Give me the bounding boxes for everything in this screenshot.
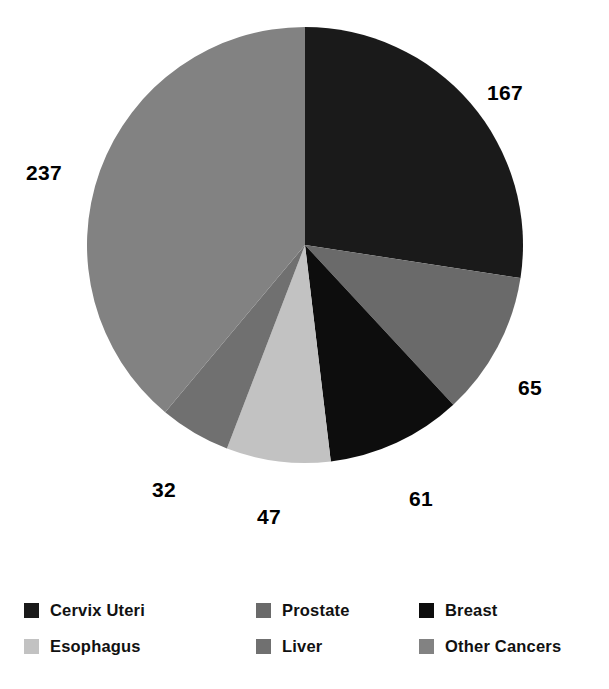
legend-item-esophagus[interactable]: Esophagus (24, 637, 256, 656)
legend-item-prostate[interactable]: Prostate (256, 601, 419, 620)
legend-item-liver[interactable]: Liver (256, 637, 419, 656)
data-label-cervix-uteri: 167 (487, 81, 523, 105)
pie-slice-cervix-uteri[interactable] (305, 27, 523, 278)
data-label-liver: 32 (152, 478, 176, 502)
legend-swatch-icon-prostate (256, 603, 271, 618)
legend-label-other-cancers: Other Cancers (445, 637, 561, 656)
pie-chart-svg (85, 25, 525, 465)
data-label-prostate: 65 (518, 376, 542, 400)
legend-item-other-cancers[interactable]: Other Cancers (419, 637, 584, 656)
legend-swatch-icon-liver (256, 639, 271, 654)
legend-swatch-icon-other-cancers (419, 639, 434, 654)
pie-chart-figure: 167 65 61 47 32 237 Cervix Uteri Prostat… (0, 0, 609, 689)
legend-swatch-icon-esophagus (24, 639, 39, 654)
legend-label-prostate: Prostate (282, 601, 350, 620)
legend-item-breast[interactable]: Breast (419, 601, 584, 620)
data-label-breast: 61 (409, 487, 433, 511)
chart-legend: Cervix Uteri Prostate Breast Esophagus L… (24, 592, 584, 664)
legend-item-cervix-uteri[interactable]: Cervix Uteri (24, 601, 256, 620)
legend-label-cervix-uteri: Cervix Uteri (50, 601, 145, 620)
pie-slices (87, 27, 523, 463)
pie-chart-plot-area: 167 65 61 47 32 237 (0, 0, 609, 560)
legend-swatch-icon-cervix-uteri (24, 603, 39, 618)
data-label-other-cancers: 237 (26, 161, 62, 185)
legend-label-liver: Liver (282, 637, 322, 656)
legend-label-breast: Breast (445, 601, 498, 620)
data-label-esophagus: 47 (257, 505, 281, 529)
legend-label-esophagus: Esophagus (50, 637, 141, 656)
legend-swatch-icon-breast (419, 603, 434, 618)
